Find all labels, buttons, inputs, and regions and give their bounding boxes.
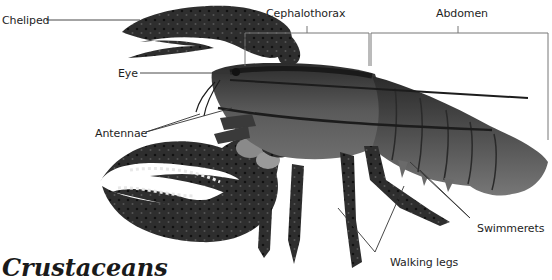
label-cheliped: Cheliped [2,14,49,27]
label-antennae: Antennae [95,127,147,140]
label-walking-legs: Walking legs [390,256,458,269]
label-abdomen: Abdomen [436,7,488,20]
eye-shape [232,68,240,76]
label-cephalothorax: Cephalothorax [266,7,345,20]
lower-claw [100,136,280,242]
cut-off-heading: Crustaceans [2,256,168,280]
label-eye: Eye [118,67,138,80]
label-swimmerets: Swimmerets [477,222,544,235]
